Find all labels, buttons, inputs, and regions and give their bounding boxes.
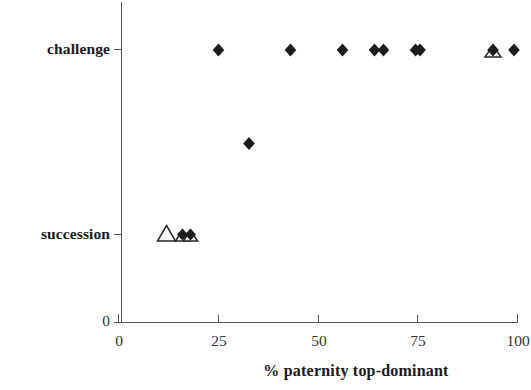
data-point-diamond bbox=[508, 44, 520, 57]
x-tick-label-50: 50 bbox=[299, 332, 339, 350]
x-tick-label-100: 100 bbox=[497, 332, 531, 350]
x-axis-line bbox=[118, 314, 518, 323]
x-tick-label-75: 75 bbox=[398, 332, 438, 350]
y-category-label-succession: succession bbox=[2, 225, 110, 243]
x-tick-label-0: 0 bbox=[99, 332, 139, 350]
x-axis-title: % paternity top-dominant bbox=[181, 362, 531, 380]
scatter-plot-canvas bbox=[0, 0, 531, 390]
data-point-diamond bbox=[337, 44, 349, 57]
data-point-diamond bbox=[378, 44, 390, 57]
chart-figure: challenge succession 0 0 25 50 75 100 % … bbox=[0, 0, 531, 390]
x-tick-label-25: 25 bbox=[199, 332, 239, 350]
data-point-diamond bbox=[243, 137, 255, 150]
y-category-label-challenge: challenge bbox=[2, 40, 110, 58]
data-point-triangle bbox=[158, 226, 176, 242]
data-point-diamond bbox=[213, 44, 225, 57]
data-point-diamond bbox=[285, 44, 297, 57]
y-zero-label: 0 bbox=[2, 312, 110, 330]
